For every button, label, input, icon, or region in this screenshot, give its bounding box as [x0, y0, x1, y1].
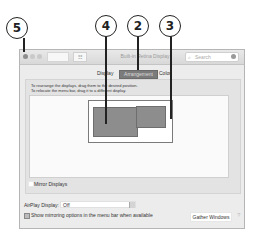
search-placeholder: Search — [195, 53, 211, 61]
callout-3-leader — [170, 36, 172, 119]
tab-arrangement[interactable]: Arrangement — [119, 70, 158, 79]
display-2-thumbnail[interactable] — [136, 106, 166, 128]
airplay-display-label: AirPlay Display: — [24, 202, 59, 208]
search-field[interactable]: ⌕ Search — [185, 52, 239, 62]
select-arrows-icon — [129, 202, 135, 208]
callout-2-leader — [137, 36, 139, 70]
display-arrangement-area — [29, 95, 229, 178]
instruction-line-2: To relocate the menu bar, drag it to a d… — [31, 88, 126, 93]
close-button[interactable] — [23, 54, 28, 59]
title-bar: ☷ Built-in Retina Display ⌕ Search — [20, 50, 244, 65]
display-1-thumbnail[interactable] — [93, 107, 138, 137]
tab-bar: Display Arrangement Color — [20, 70, 244, 78]
gather-windows-button[interactable]: Gather Windows — [190, 212, 232, 222]
callout-2: 2 — [127, 15, 149, 37]
display-selection-frame — [88, 100, 173, 143]
back-forward-buttons[interactable] — [47, 52, 69, 62]
callout-3: 3 — [159, 15, 181, 37]
airplay-selected-value: Off — [63, 202, 70, 208]
help-icon[interactable]: ? — [237, 212, 240, 218]
airplay-display-select[interactable]: Off — [60, 201, 136, 208]
minimize-button[interactable] — [30, 54, 35, 59]
callout-5: 5 — [6, 17, 28, 39]
search-icon: ⌕ — [188, 53, 191, 61]
show-all-grid-icon[interactable]: ☷ — [73, 52, 87, 62]
clear-search-icon[interactable] — [231, 54, 236, 59]
displays-preferences-window: ☷ Built-in Retina Display ⌕ Search Displ… — [19, 49, 245, 229]
window-title: Built-in Retina Display — [100, 53, 190, 59]
callout-5-leader — [23, 38, 25, 52]
arrangement-pane: To rearrange the displays, drag them to … — [25, 79, 241, 194]
mirror-displays-label: Mirror Displays — [34, 181, 67, 187]
callout-4-leader — [105, 36, 107, 124]
show-mirroring-checkbox[interactable] — [24, 213, 30, 219]
callout-4: 4 — [95, 15, 117, 37]
show-mirroring-label: Show mirroring options in the menu bar w… — [31, 212, 153, 218]
zoom-button[interactable] — [37, 54, 42, 59]
